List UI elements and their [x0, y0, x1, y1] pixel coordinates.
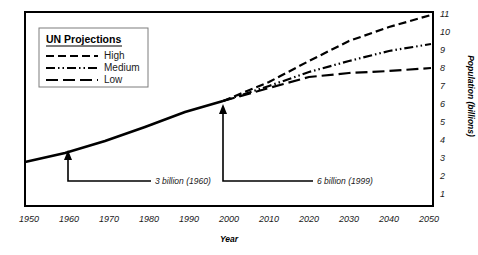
x-tick-label: 2020: [298, 214, 319, 224]
x-tick-label: 1980: [139, 214, 159, 224]
y-tick-label: 6: [440, 99, 445, 109]
annotation-label: 6 billion (1999): [317, 176, 373, 186]
x-tick-label: 2050: [418, 214, 439, 224]
x-axis-title: Year: [220, 234, 239, 244]
y-tick-label: 8: [440, 63, 445, 73]
y-axis-title: Population (billions): [466, 55, 476, 137]
y-tick-label: 1: [440, 189, 445, 199]
legend-title: UN Projections: [46, 33, 121, 45]
y-tick-label: 9: [440, 45, 445, 55]
y-tick-label: 10: [440, 27, 450, 37]
y-tick-label: 4: [440, 135, 445, 145]
legend-label-high: High: [104, 50, 125, 61]
annotation-label: 3 billion (1960): [155, 176, 211, 186]
x-tick-label: 1970: [99, 214, 119, 224]
x-tick-label: 2040: [378, 214, 399, 224]
chart-page: 11 10 9 8 7 6 5 4 3 2 1 Population (bill…: [0, 0, 478, 255]
x-tick-label: 1950: [19, 214, 39, 224]
y-tick-label: 11: [440, 9, 449, 19]
x-tick-label: 2000: [218, 214, 239, 224]
x-tick-label: 2010: [258, 214, 279, 224]
legend-label-medium: Medium: [104, 62, 140, 73]
legend-label-low: Low: [104, 74, 123, 85]
legend: UN Projections High Medium Low: [39, 28, 148, 87]
population-projection-chart: 11 10 9 8 7 6 5 4 3 2 1 Population (bill…: [0, 0, 478, 255]
x-tick-label: 1960: [59, 214, 79, 224]
y-tick-label: 2: [439, 171, 445, 181]
y-tick-label: 3: [440, 153, 445, 163]
x-tick-label: 2030: [338, 214, 359, 224]
x-tick-label: 1990: [179, 214, 199, 224]
